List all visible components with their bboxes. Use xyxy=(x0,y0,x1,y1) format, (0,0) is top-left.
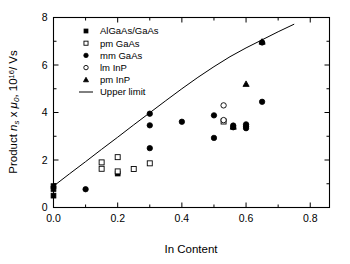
x-axis-label: In Content xyxy=(164,243,218,255)
data-point-open-square xyxy=(84,41,88,45)
legend-item-upper-limit: Upper limit xyxy=(79,86,146,97)
chart-figure: 0.00.20.40.60.802468 AlGaAs/GaAspm GaAsm… xyxy=(0,0,350,264)
ylabel-exponent: 16 xyxy=(7,70,16,78)
data-point-markers xyxy=(51,39,265,198)
legend-item-pm-gaas: pm GaAs xyxy=(84,38,140,49)
series-pm-gaas xyxy=(99,119,226,174)
data-point-filled-triangle xyxy=(243,81,249,87)
series-algaas-gaas xyxy=(51,171,120,198)
data-point-filled-square xyxy=(51,193,56,198)
legend-label: mm GaAs xyxy=(100,50,142,61)
data-point-filled-square xyxy=(51,184,56,189)
upper-limit-curve xyxy=(54,24,295,186)
plot-frame xyxy=(54,18,330,208)
data-point-filled-circle xyxy=(179,119,184,124)
data-point-filled-circle xyxy=(211,113,216,118)
svg-text:Product ns x μ0, 1016/ Vs: Product ns x μ0, 1016/ Vs xyxy=(7,50,21,174)
y-tick-label: 2 xyxy=(42,154,48,166)
legend-item-pm-inp: pm InP xyxy=(83,74,130,85)
axis-ticks xyxy=(54,18,330,208)
legend-label: Upper limit xyxy=(100,86,146,97)
legend-label: lm InP xyxy=(100,62,127,73)
ylabel-times: x xyxy=(7,108,19,120)
ylabel-suffix: , 10 xyxy=(7,78,19,97)
scatter-plot: 0.00.20.40.60.802468 AlGaAs/GaAspm GaAsm… xyxy=(0,0,350,264)
data-point-filled-circle xyxy=(147,123,152,128)
data-point-open-square xyxy=(99,160,104,165)
x-tick-label: 0.2 xyxy=(110,212,125,224)
data-point-filled-triangle xyxy=(83,77,88,82)
data-point-filled-circle xyxy=(147,111,152,116)
data-point-filled-circle xyxy=(84,53,88,57)
legend-item-mm-gaas: mm GaAs xyxy=(84,50,143,61)
y-tick-label: 4 xyxy=(42,106,48,118)
data-point-filled-circle xyxy=(83,187,88,192)
data-point-filled-square xyxy=(84,29,88,33)
x-tick-label: 0.0 xyxy=(46,212,61,224)
series-lm-inp xyxy=(221,103,226,123)
chart-legend: AlGaAs/GaAspm GaAsmm GaAslm InPpm InPUpp… xyxy=(79,25,159,97)
legend-label: pm InP xyxy=(100,74,130,85)
data-point-open-circle xyxy=(84,65,88,69)
data-point-open-circle xyxy=(221,117,226,122)
data-point-filled-circle xyxy=(259,99,264,104)
data-point-open-circle xyxy=(221,103,226,108)
x-tick-label: 0.4 xyxy=(175,212,190,224)
series-pm-inp xyxy=(230,39,265,130)
data-point-open-square xyxy=(131,167,136,172)
x-tick-label: 0.6 xyxy=(239,212,254,224)
y-tick-label: 6 xyxy=(42,59,48,71)
data-point-open-square xyxy=(115,169,120,174)
data-point-filled-circle xyxy=(243,125,248,130)
data-point-open-square xyxy=(147,161,152,166)
legend-label: AlGaAs/GaAs xyxy=(100,25,159,36)
data-point-open-square xyxy=(115,155,120,160)
data-point-open-square xyxy=(99,166,104,171)
x-tick-label: 0.8 xyxy=(303,212,318,224)
data-point-filled-circle xyxy=(211,135,216,140)
axis-tick-labels: 0.00.20.40.60.802468 xyxy=(42,11,318,223)
ylabel-tail: / Vs xyxy=(7,50,19,70)
legend-item-lm-inp: lm InP xyxy=(84,62,127,73)
ylabel-prefix: Product xyxy=(7,131,19,174)
y-axis-label: Product ns x μ0, 1016/ Vs xyxy=(7,50,21,174)
data-point-filled-circle xyxy=(147,145,152,150)
legend-item-algaas-gaas: AlGaAs/GaAs xyxy=(84,25,159,36)
legend-label: pm GaAs xyxy=(100,38,140,49)
y-tick-label: 0 xyxy=(42,201,48,213)
y-tick-label: 8 xyxy=(42,11,48,23)
